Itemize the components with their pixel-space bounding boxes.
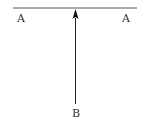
label-a-left: A — [16, 12, 26, 25]
label-b-bottom: B — [72, 107, 80, 120]
diagram-canvas: A A B — [0, 0, 148, 125]
arrow-b-to-line — [73, 9, 79, 104]
arrowhead-icon — [73, 9, 79, 19]
label-a-right: A — [121, 12, 131, 25]
